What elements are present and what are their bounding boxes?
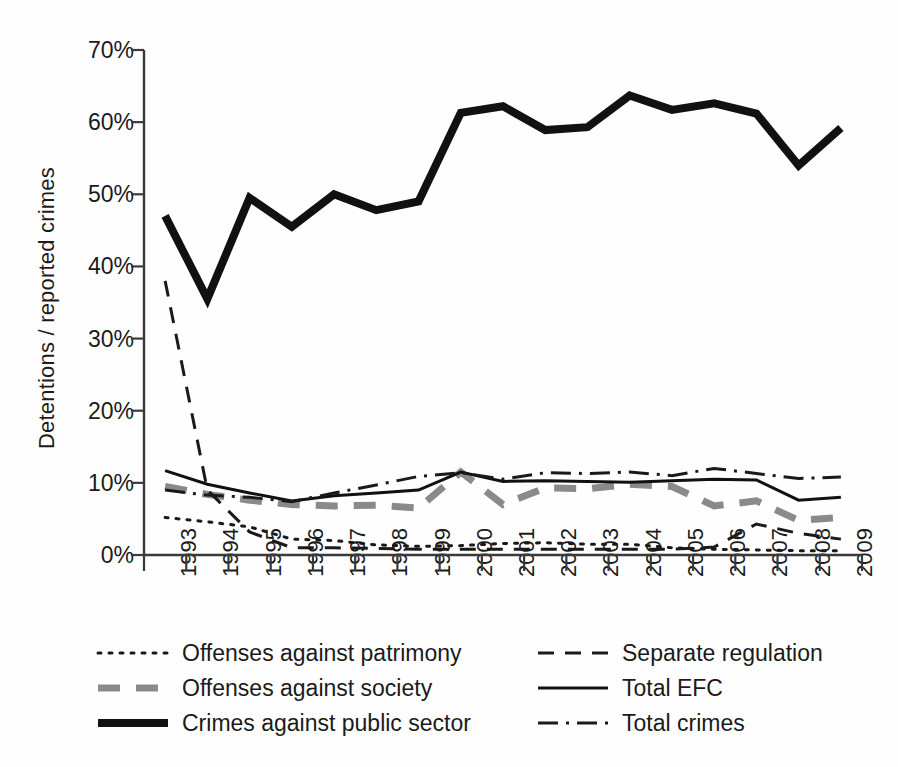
legend-label: Separate regulation	[622, 640, 823, 667]
legend-swatch-dashed-icon	[536, 644, 610, 662]
legend-item-total-crimes[interactable]: Total crimes	[536, 706, 745, 740]
series-line-crimes-against-public-sector	[165, 95, 841, 298]
legend-swatch-dashed-thick-gray-icon	[96, 679, 170, 697]
legend-item-offenses-against-patrimony[interactable]: Offenses against patrimony	[96, 636, 462, 670]
legend-label: Offenses against society	[182, 675, 432, 702]
legend-swatch-dash-dot-icon	[536, 714, 610, 732]
axes	[131, 50, 862, 571]
data-series-group	[165, 95, 841, 550]
legend-item-total-efc[interactable]: Total EFC	[536, 671, 723, 705]
series-line-separate-regulation	[165, 281, 841, 549]
legend-label: Offenses against patrimony	[182, 640, 462, 667]
legend-swatch-solid-thick-icon	[96, 714, 170, 732]
chart-legend: Offenses against patrimonyOffenses again…	[96, 636, 886, 740]
legend-swatch-dotted-icon	[96, 644, 170, 662]
legend-item-crimes-against-public-sector[interactable]: Crimes against public sector	[96, 706, 471, 740]
series-line-total-efc	[165, 471, 841, 501]
legend-swatch-solid-thin-icon	[536, 679, 610, 697]
legend-label: Total EFC	[622, 675, 723, 702]
legend-item-offenses-against-society[interactable]: Offenses against society	[96, 671, 432, 705]
legend-label: Crimes against public sector	[182, 710, 471, 737]
legend-label: Total crimes	[622, 710, 745, 737]
legend-item-separate-regulation[interactable]: Separate regulation	[536, 636, 823, 670]
figure-chart-detentions-reported-crimes: Detentions / reported crimes 0%10%20%30%…	[0, 0, 898, 767]
